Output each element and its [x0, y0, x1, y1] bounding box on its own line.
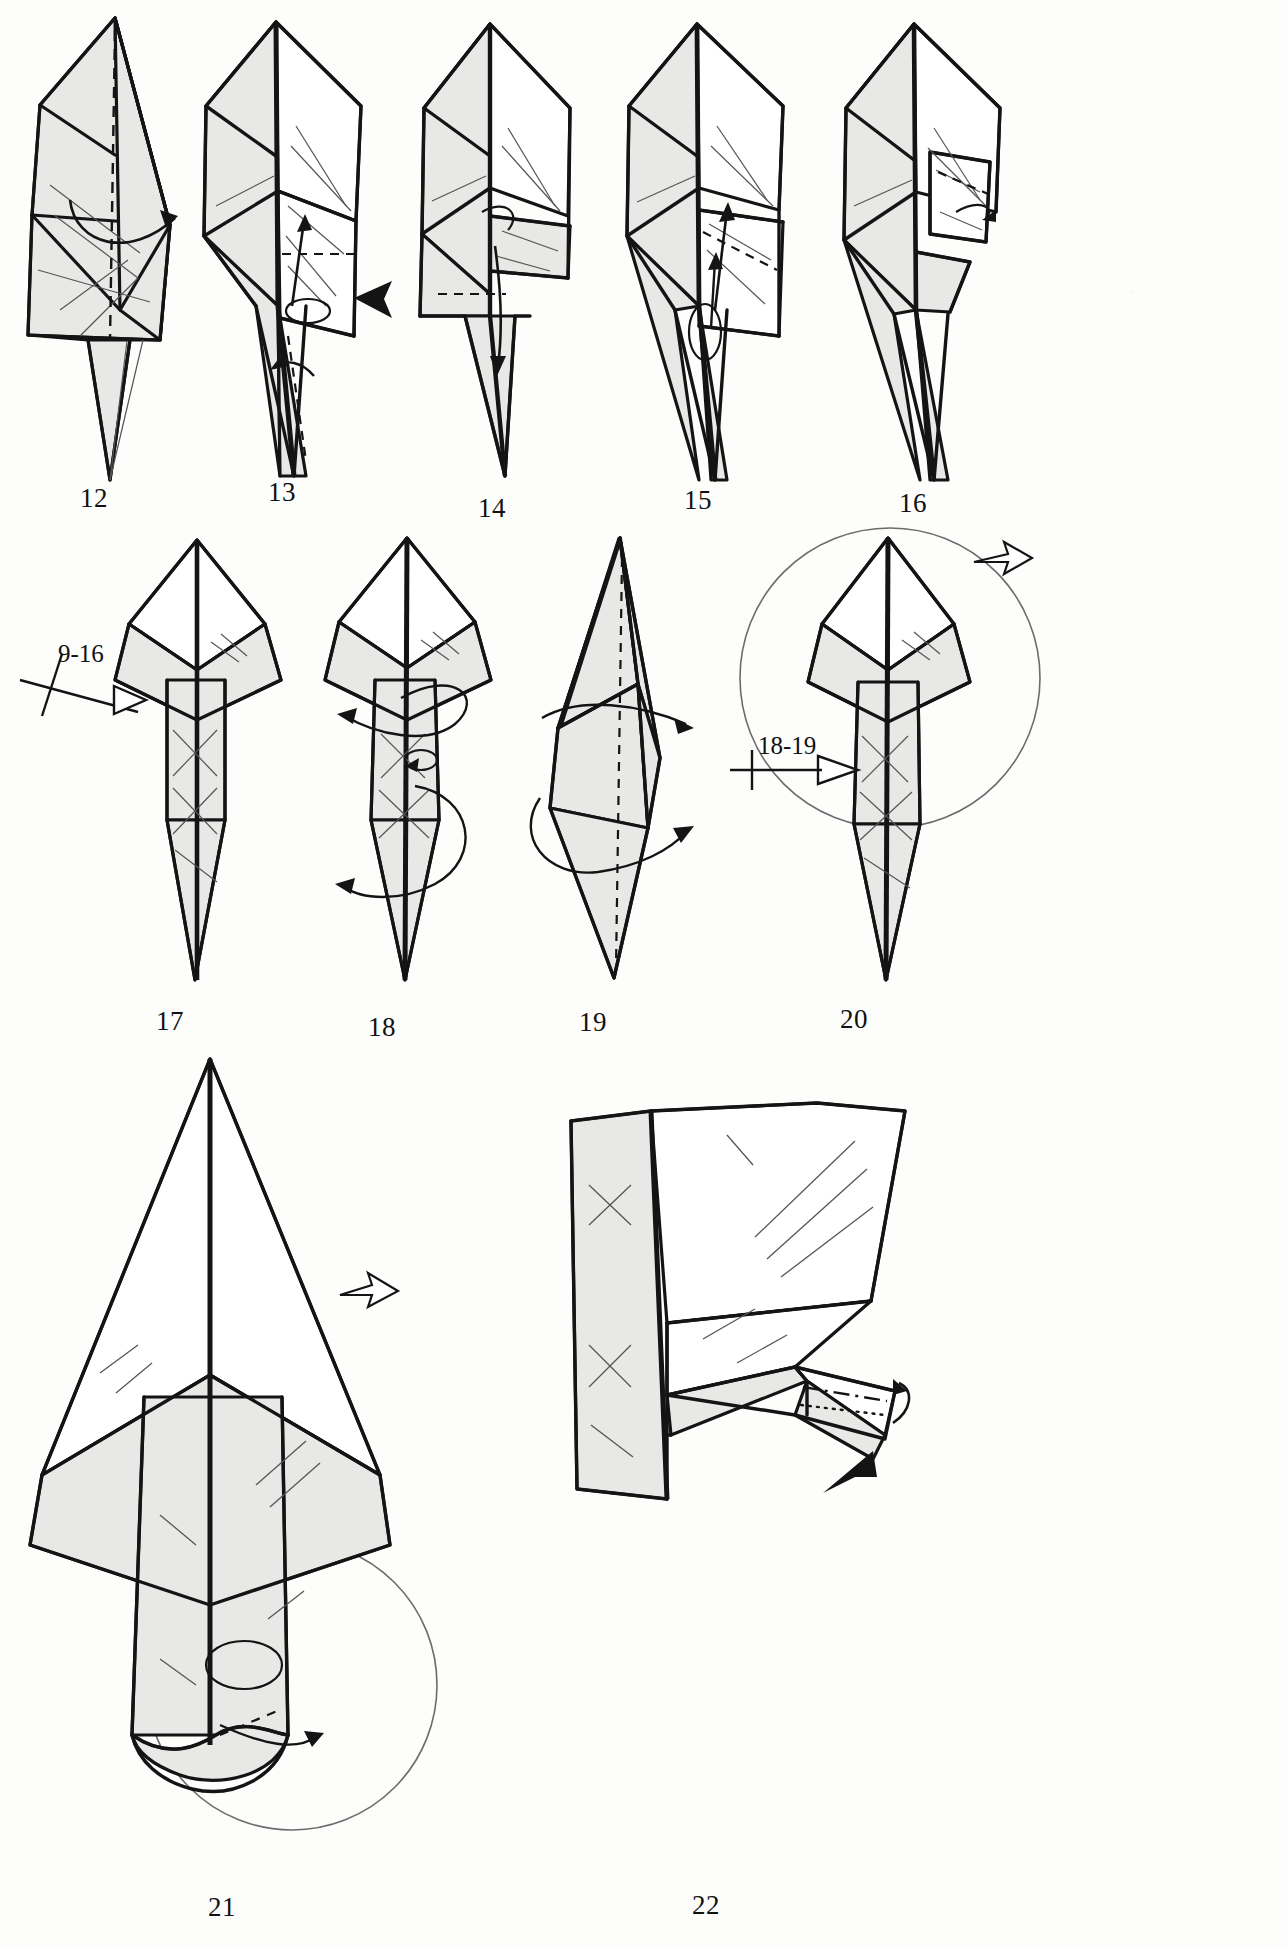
diagram-step-21: [20, 1045, 460, 1905]
instruction-page: 12: [0, 0, 1287, 1948]
diagram-step-16: [830, 12, 1050, 492]
diagram-step-17: [95, 530, 315, 1010]
step-number-17: 17: [156, 1006, 184, 1037]
push-here-solid-arrow: [823, 1451, 877, 1493]
step-number-21: 21: [208, 1892, 236, 1923]
step-number-19: 19: [579, 1007, 607, 1038]
diagram-step-13: [196, 6, 426, 486]
diagram-step-19: [520, 528, 740, 1008]
step-number-14: 14: [478, 493, 506, 524]
hollow-open-arrow: [974, 542, 1032, 574]
diagram-step-14: [410, 16, 620, 486]
diagram-step-20: [760, 528, 1050, 1018]
curved-turn-arrow: [893, 1379, 909, 1423]
push-here-solid-arrow: [354, 281, 392, 318]
repeat-label-18-19: 18-19: [758, 732, 816, 760]
step-number-12: 12: [80, 483, 108, 514]
step-number-16: 16: [899, 488, 927, 519]
step-number-22: 22: [692, 1890, 720, 1921]
diagram-step-18: [305, 528, 535, 1018]
hollow-open-arrow: [340, 1273, 398, 1307]
diagram-step-15: [615, 10, 835, 490]
step-number-18: 18: [368, 1012, 396, 1043]
step-number-20: 20: [840, 1004, 868, 1035]
repeat-pointer-arrow: [818, 756, 858, 784]
step-number-13: 13: [268, 477, 296, 508]
step-number-15: 15: [684, 485, 712, 516]
diagram-step-22: [555, 1095, 1055, 1515]
spine-line: [886, 538, 888, 980]
